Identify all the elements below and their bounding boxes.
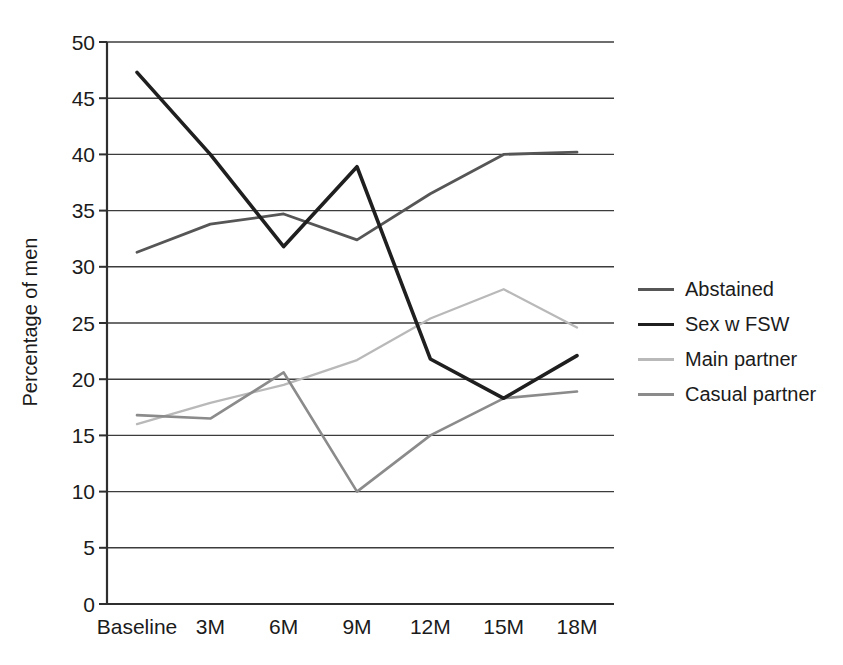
y-tick-label: 0 [83, 593, 95, 616]
y-tick-label: 35 [72, 199, 95, 222]
series-line-main-partner [137, 289, 577, 424]
x-tick-label: Baseline [97, 615, 178, 638]
legend-item-abstained: Abstained [638, 272, 816, 307]
legend-line-swatch [638, 393, 674, 396]
legend-line-swatch [638, 323, 674, 327]
line-chart-figure: 05101520253035404550Baseline3M6M9M12M15M… [0, 0, 843, 665]
y-tick-label: 50 [72, 31, 95, 54]
y-tick-label: 5 [83, 536, 95, 559]
x-tick-label: 3M [196, 615, 225, 638]
y-axis-title: Percentage of men [19, 238, 42, 407]
legend-line-swatch [638, 358, 674, 360]
y-tick-label: 10 [72, 480, 95, 503]
legend-item-casual-partner: Casual partner [638, 377, 816, 412]
legend-item-sex-w-fsw: Sex w FSW [638, 307, 816, 342]
x-tick-label: 12M [410, 615, 451, 638]
y-tick-label: 15 [72, 424, 95, 447]
legend-label: Sex w FSW [685, 313, 789, 336]
series-line-sex-w-fsw [137, 72, 577, 398]
legend-label: Casual partner [685, 383, 816, 406]
x-tick-label: 18M [557, 615, 598, 638]
legend-label: Abstained [685, 278, 774, 301]
y-tick-label: 30 [72, 255, 95, 278]
x-tick-label: 6M [269, 615, 298, 638]
series-line-casual-partner [137, 372, 577, 491]
y-tick-label: 20 [72, 368, 95, 391]
legend-line-swatch [638, 288, 674, 291]
chart-legend: Abstained Sex w FSW Main partner Casual … [638, 272, 816, 412]
y-tick-label: 40 [72, 143, 95, 166]
x-tick-label: 15M [483, 615, 524, 638]
y-tick-label: 25 [72, 312, 95, 335]
legend-label: Main partner [685, 348, 797, 371]
y-tick-label: 45 [72, 87, 95, 110]
legend-item-main-partner: Main partner [638, 342, 816, 377]
x-tick-label: 9M [342, 615, 371, 638]
